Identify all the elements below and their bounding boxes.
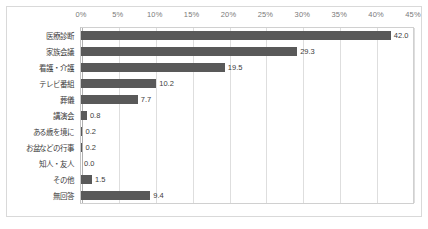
- x-axis-tick-label: 15%: [184, 10, 200, 19]
- bar-value-label: 0.2: [85, 143, 95, 152]
- bar-row: ある歳を境に0.2: [0, 124, 428, 140]
- bar-rows: 医療診断42.0家族会議29.3看護・介護19.5テレビ番組10.2葬儀7.7講…: [0, 27, 428, 204]
- bar: [81, 79, 156, 88]
- bar: [81, 191, 150, 200]
- bar: [81, 175, 92, 184]
- category-label: お盆などの行事: [0, 142, 74, 153]
- x-axis-tick-label: 45%: [405, 10, 421, 19]
- bar-row: 看護・介護19.5: [0, 59, 428, 75]
- category-label: テレビ番組: [0, 78, 74, 89]
- bar-row: 知人・友人0.0: [0, 156, 428, 172]
- bar-value-label: 10.2: [159, 79, 174, 88]
- bar-row: 講演会0.8: [0, 107, 428, 123]
- bar-chart: 0%5%10%15%20%25%30%35%40%45% 医療診断42.0家族会…: [0, 0, 428, 229]
- bar-value-label: 0.8: [90, 111, 100, 120]
- x-axis-tick-labels: 0%5%10%15%20%25%30%35%40%45%: [0, 10, 428, 24]
- bar-row: 無回答9.4: [0, 188, 428, 204]
- bar-and-value: 9.4: [81, 188, 164, 204]
- category-label: 無回答: [0, 190, 74, 201]
- bar-value-label: 0.2: [85, 127, 95, 136]
- category-label: 知人・友人: [0, 158, 74, 169]
- bar-and-value: 1.5: [81, 172, 106, 188]
- bar: [81, 95, 138, 104]
- bar-and-value: 0.2: [81, 124, 96, 140]
- x-axis-tick-label: 35%: [331, 10, 347, 19]
- x-axis-tick-label: 0%: [75, 10, 86, 19]
- bar-and-value: 42.0: [81, 27, 408, 43]
- bar: [81, 143, 82, 152]
- category-label: 看護・介護: [0, 62, 74, 73]
- category-label: その他: [0, 174, 74, 185]
- bar: [81, 47, 297, 56]
- x-axis-tick-label: 40%: [368, 10, 384, 19]
- bar-value-label: 7.7: [141, 95, 151, 104]
- bar-row: 家族会議29.3: [0, 43, 428, 59]
- category-label: 講演会: [0, 110, 74, 121]
- bar-row: その他1.5: [0, 172, 428, 188]
- x-axis-tick-label: 5%: [112, 10, 123, 19]
- bar: [81, 111, 87, 120]
- bar-and-value: 0.8: [81, 107, 100, 123]
- bar-value-label: 0.0: [84, 159, 94, 168]
- bar-row: 葬儀7.7: [0, 91, 428, 107]
- bar-and-value: 19.5: [81, 59, 242, 75]
- bar-value-label: 42.0: [394, 31, 409, 40]
- bar: [81, 127, 82, 136]
- bar-and-value: 29.3: [81, 43, 315, 59]
- x-axis-tick-label: 20%: [221, 10, 237, 19]
- bar-and-value: 10.2: [81, 75, 174, 91]
- bar: [81, 63, 225, 72]
- bar-and-value: 0.0: [81, 156, 94, 172]
- category-label: 葬儀: [0, 94, 74, 105]
- category-label: 医療診断: [0, 30, 74, 41]
- category-label: 家族会議: [0, 46, 74, 57]
- x-axis-tick-label: 30%: [295, 10, 311, 19]
- bar-row: お盆などの行事0.2: [0, 140, 428, 156]
- x-axis-tick-label: 10%: [147, 10, 163, 19]
- bar-value-label: 29.3: [300, 47, 315, 56]
- bar: [81, 31, 391, 40]
- bar-and-value: 0.2: [81, 140, 96, 156]
- bar-row: テレビ番組10.2: [0, 75, 428, 91]
- bar-value-label: 1.5: [95, 175, 105, 184]
- bar-and-value: 7.7: [81, 91, 151, 107]
- bar-value-label: 9.4: [153, 191, 163, 200]
- bar-value-label: 19.5: [228, 63, 243, 72]
- x-axis-tick-label: 25%: [258, 10, 274, 19]
- bar-row: 医療診断42.0: [0, 27, 428, 43]
- category-label: ある歳を境に: [0, 126, 74, 137]
